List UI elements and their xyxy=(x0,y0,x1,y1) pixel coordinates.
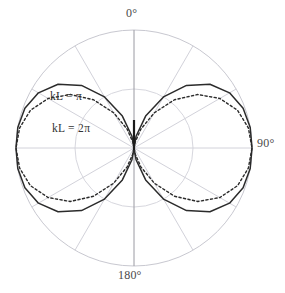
curve-annotation-kl-2pi: kL = 2π xyxy=(52,122,90,134)
polar-plot-canvas xyxy=(0,0,285,293)
axis-label-90-degrees: 90° xyxy=(257,136,274,151)
axis-label-180-degrees: 180° xyxy=(118,268,142,283)
polar-radiation-pattern-figure: 0° 90° 180° kL = π kL = 2π xyxy=(0,0,285,293)
axis-label-0-degrees: 0° xyxy=(126,6,137,21)
curve-annotation-kl-pi: kL = π xyxy=(50,90,82,102)
